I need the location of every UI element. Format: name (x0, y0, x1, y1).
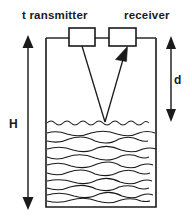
liquid-wave-2 (47, 137, 148, 143)
ultrasonic-beam-path (82, 46, 128, 122)
tank-height-arrowhead-bottom (23, 197, 34, 210)
reflected-beam-line (105, 56, 124, 122)
receiver-label: receiver (124, 9, 170, 21)
ultrasonic-level-diagram: t ransmitter receiver H d (0, 0, 192, 221)
reflected-beam-arrowhead (116, 47, 128, 62)
liquid-wave-10 (47, 198, 150, 203)
liquid-wave-9 (47, 192, 153, 197)
transmitter-box[interactable] (69, 28, 95, 46)
liquid-wave-6 (47, 170, 150, 176)
liquid-body (47, 121, 156, 203)
distance-arrowhead-top (166, 36, 176, 49)
emitted-beam-line (82, 46, 105, 122)
tank-height-label: H (9, 117, 18, 131)
distance-label: d (174, 73, 181, 87)
liquid-wave-1 (47, 131, 155, 136)
liquid-wave-3 (47, 146, 156, 151)
liquid-wave-5 (47, 162, 153, 168)
tank-height-arrowhead-top (23, 35, 34, 48)
tank-height-arrow (23, 35, 34, 210)
diagram-canvas: t ransmitter receiver H d (0, 0, 192, 221)
liquid-wave-4 (47, 155, 149, 160)
transmitter-label: t ransmitter (22, 9, 88, 21)
liquid-wave-8 (47, 185, 149, 190)
liquid-surface-line (47, 121, 149, 125)
liquid-wave-7 (47, 178, 152, 183)
receiver-box[interactable] (109, 28, 136, 46)
distance-arrowhead-bottom (166, 109, 176, 122)
